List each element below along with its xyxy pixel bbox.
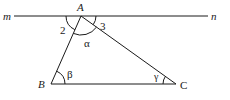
label-angle-2: 2 (60, 24, 66, 36)
label-gamma: γ (153, 71, 159, 82)
label-beta: β (67, 68, 73, 80)
label-angle-3: 3 (100, 20, 106, 32)
side-ac (81, 16, 176, 84)
angle-alpha-arc (73, 27, 96, 35)
label-alpha: α (84, 37, 90, 49)
angle-gamma-arc (163, 76, 165, 84)
angle-2-arc (66, 16, 75, 30)
angle-beta-arc (57, 71, 65, 84)
angle-3-arc (93, 16, 96, 25)
side-ab (51, 16, 81, 84)
label-m: m (3, 10, 11, 22)
diagram-svg: m n A B C 2 3 α β γ (0, 0, 230, 100)
label-n: n (211, 10, 217, 22)
geometry-diagram: m n A B C 2 3 α β γ (0, 0, 230, 100)
label-b: B (38, 78, 45, 90)
label-c: C (180, 79, 187, 91)
label-a: A (76, 1, 84, 13)
